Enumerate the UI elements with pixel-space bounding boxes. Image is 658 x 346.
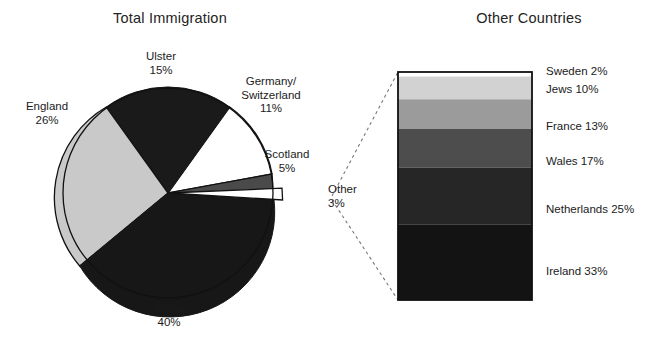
- figure-canvas: Total Immigration Other Countries: [0, 0, 658, 346]
- pie-slices: [54, 87, 282, 317]
- stacked-bar-column: [398, 72, 532, 300]
- bar-segment-jews[interactable]: [398, 77, 532, 100]
- callout-line-bottom: [332, 200, 398, 300]
- bar-label-ireland: Ireland 33%: [546, 265, 607, 278]
- pie-label-africa-name: Africa: [154, 302, 183, 314]
- pie-label-england: England 26%: [16, 100, 78, 127]
- bar-segment-ireland[interactable]: [398, 225, 532, 300]
- bar-label-sweden: Sweden 2%: [546, 65, 607, 78]
- pie-label-africa: Africa 40%: [138, 302, 200, 329]
- pie-label-germany-pct: 11%: [232, 102, 310, 116]
- pie-label-scotland-name: Scotland: [265, 148, 310, 160]
- bar-segment-wales[interactable]: [398, 129, 532, 168]
- pie-label-scotland-pct: 5%: [256, 162, 318, 176]
- pie-label-germany-switzerland: Germany/ Switzerland 11%: [232, 75, 310, 116]
- bar-segment-france[interactable]: [398, 99, 532, 129]
- bar-label-wales: Wales 17%: [546, 155, 604, 168]
- bar-label-jews: Jews 10%: [546, 83, 598, 96]
- pie-label-ulster-pct: 15%: [130, 64, 192, 78]
- pie-label-germany-name2: Switzerland: [232, 89, 310, 103]
- pie-label-england-name: England: [26, 100, 68, 112]
- pie-label-other-pct: 3%: [328, 197, 370, 211]
- bar-label-france: France 13%: [546, 120, 608, 133]
- pie-label-other-name: Other: [328, 183, 357, 195]
- bar-segment-netherlands[interactable]: [398, 168, 532, 225]
- pie-label-africa-pct: 40%: [138, 316, 200, 330]
- pie-chart-svg: [0, 0, 658, 346]
- pie-label-scotland: Scotland 5%: [256, 148, 318, 175]
- pie-label-ulster-name: Ulster: [146, 50, 176, 62]
- pie-label-other: Other 3%: [328, 183, 370, 210]
- callout-line-top: [332, 72, 398, 196]
- pie-label-germany-name: Germany/: [246, 75, 297, 87]
- pie-label-ulster: Ulster 15%: [130, 50, 192, 77]
- pie-label-england-pct: 26%: [16, 114, 78, 128]
- bar-label-netherlands: Netherlands 25%: [546, 203, 634, 216]
